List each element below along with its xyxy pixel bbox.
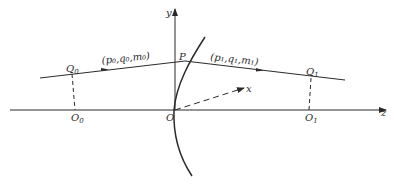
z-axis-label: z	[380, 107, 387, 118]
q1-o1-dashed	[309, 78, 311, 110]
x-axis-label: x	[246, 83, 252, 94]
refracted-ray	[185, 61, 345, 80]
point-q1-label: Q1	[306, 66, 319, 79]
incident-ray-label: (p₀,q₀,m₀)	[101, 50, 150, 66]
x-axis	[175, 88, 244, 110]
origin-label: O	[166, 112, 174, 123]
point-o1-label: O1	[305, 112, 318, 125]
optics-diagram: y z x O P Q0 Q1 O0 O1 (p₀,q₀,m₀) (p₁,q₁,…	[0, 0, 394, 187]
q0-o0-dashed	[72, 74, 75, 110]
y-axis-label: y	[165, 7, 172, 18]
point-p-label: P	[178, 51, 186, 62]
point-o0-label: O0	[71, 112, 84, 125]
